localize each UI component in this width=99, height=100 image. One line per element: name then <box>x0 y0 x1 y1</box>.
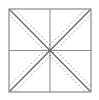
clipped-line-group <box>4 4 97 98</box>
center-intersection-point <box>48 49 51 52</box>
square-diagonals-diagram <box>0 0 99 100</box>
figure-root <box>0 0 99 100</box>
